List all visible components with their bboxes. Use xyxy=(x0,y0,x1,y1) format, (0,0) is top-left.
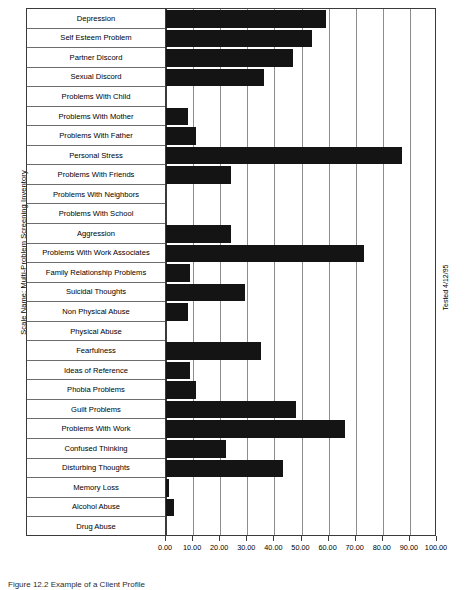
x-tick-100 xyxy=(436,536,437,541)
x-tick-30 xyxy=(246,536,247,541)
bar-row xyxy=(166,107,435,127)
bar-row xyxy=(166,29,435,49)
bar-row xyxy=(166,87,435,107)
bar xyxy=(166,225,231,243)
figure-caption: Figure 12.2 Example of a Client Profile xyxy=(8,580,145,589)
plot-frame: DepressionSelf Esteem ProblemPartner Dis… xyxy=(26,8,436,536)
x-tick-40 xyxy=(273,536,274,541)
category-label: Problems With Work xyxy=(27,419,165,439)
category-label: Confused Thinking xyxy=(27,439,165,459)
bar-row xyxy=(166,244,435,264)
x-tick-50 xyxy=(301,536,302,541)
category-label: Problems With Father xyxy=(27,126,165,146)
category-label: Disturbing Thoughts xyxy=(27,459,165,479)
category-label: Problems With Friends xyxy=(27,165,165,185)
bar-row xyxy=(166,146,435,166)
bar-row xyxy=(166,322,435,342)
tested-date-note: Tested 4/12/95 xyxy=(442,218,449,358)
client-profile-chart: Scale Name: Multi-Problem Screening Inve… xyxy=(0,0,468,590)
plot-area xyxy=(166,9,435,535)
category-label: Sexual Discord xyxy=(27,68,165,88)
bar-row xyxy=(166,185,435,205)
bar-row xyxy=(166,224,435,244)
bar xyxy=(166,362,190,380)
x-tick-80 xyxy=(382,536,383,541)
category-label: Problems With Neighbors xyxy=(27,185,165,205)
bar xyxy=(166,420,345,438)
category-label: Depression xyxy=(27,9,165,29)
bar-row xyxy=(166,459,435,479)
bar-row xyxy=(166,302,435,322)
category-label: Suicidal Thoughts xyxy=(27,283,165,303)
bar-row xyxy=(166,48,435,68)
category-label: Aggression xyxy=(27,224,165,244)
category-label: Problems With Mother xyxy=(27,107,165,127)
category-label: Fearfulness xyxy=(27,341,165,361)
bar xyxy=(166,479,169,497)
bar xyxy=(166,108,188,126)
x-axis-tick-labels: 0.0010.0020.0030.0040.0050.0060.0070.008… xyxy=(26,543,468,557)
bar xyxy=(166,284,245,302)
category-label: Problems With School xyxy=(27,204,165,224)
bar-row xyxy=(166,165,435,185)
category-label: Problems With Work Associates xyxy=(27,244,165,264)
category-label: Partner Discord xyxy=(27,48,165,68)
x-tick-label: 100.00 xyxy=(416,543,456,552)
x-tick-20 xyxy=(219,536,220,541)
bar xyxy=(166,401,296,419)
bar xyxy=(166,381,196,399)
bar xyxy=(166,342,261,360)
bar xyxy=(166,166,231,184)
bar xyxy=(166,440,226,458)
bar-row xyxy=(166,439,435,459)
category-label: Family Relationship Problems xyxy=(27,263,165,283)
bar xyxy=(166,69,264,87)
bar xyxy=(166,49,293,67)
category-label: Alcohol Abuse xyxy=(27,498,165,518)
bar-row xyxy=(166,204,435,224)
category-label: Ideas of Reference xyxy=(27,361,165,381)
category-label: Drug Abuse xyxy=(27,517,165,537)
bar-row xyxy=(166,400,435,420)
x-tick-60 xyxy=(328,536,329,541)
bar-row xyxy=(166,478,435,498)
bar-row xyxy=(166,68,435,88)
category-label: Guilt Problems xyxy=(27,400,165,420)
bar-row xyxy=(166,419,435,439)
x-tick-10 xyxy=(192,536,193,541)
bar-row xyxy=(166,361,435,381)
bar xyxy=(166,245,364,263)
bar xyxy=(166,10,326,28)
x-tick-0 xyxy=(165,536,166,541)
x-tick-90 xyxy=(409,536,410,541)
category-label-column: DepressionSelf Esteem ProblemPartner Dis… xyxy=(27,9,166,535)
category-label: Memory Loss xyxy=(27,478,165,498)
category-label: Personal Stress xyxy=(27,146,165,166)
bar xyxy=(166,460,283,478)
bar-row xyxy=(166,263,435,283)
category-label: Non Physical Abuse xyxy=(27,302,165,322)
bar xyxy=(166,147,402,165)
bar xyxy=(166,264,190,282)
category-label: Physical Abuse xyxy=(27,322,165,342)
bar-row xyxy=(166,9,435,29)
category-label: Self Esteem Problem xyxy=(27,29,165,49)
bar-row xyxy=(166,498,435,518)
bar xyxy=(166,303,188,321)
bar-row xyxy=(166,380,435,400)
x-tick-70 xyxy=(355,536,356,541)
bar-row xyxy=(166,517,435,535)
bar xyxy=(166,127,196,145)
bar-row xyxy=(166,283,435,303)
category-label: Phobia Problems xyxy=(27,380,165,400)
bar-row xyxy=(166,126,435,146)
category-label: Problems With Child xyxy=(27,87,165,107)
bar xyxy=(166,499,174,517)
bar xyxy=(166,30,312,48)
bar-row xyxy=(166,341,435,361)
